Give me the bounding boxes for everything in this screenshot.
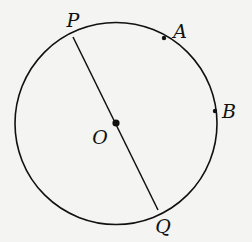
circle-diagram: P A B O Q <box>0 0 252 242</box>
label-b: B <box>221 100 236 122</box>
center-point-o <box>112 119 119 126</box>
label-a: A <box>171 20 187 42</box>
point-a <box>162 36 166 40</box>
label-p: P <box>66 9 81 31</box>
label-q: Q <box>155 215 171 237</box>
point-b <box>213 109 217 113</box>
label-o: O <box>92 126 108 148</box>
